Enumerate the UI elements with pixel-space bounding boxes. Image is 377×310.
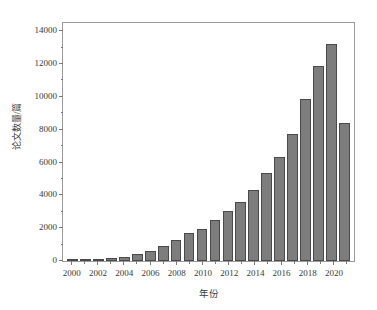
x-minor-tick-2019: [320, 261, 321, 264]
y-tick-label-8000: 8000: [39, 124, 57, 134]
x-tick-label-2014: 2014: [242, 268, 268, 278]
bar-2000: [67, 259, 78, 261]
x-tick-2004: 2004: [123, 261, 124, 265]
x-tick-label-2008: 2008: [164, 268, 190, 278]
bar-chart: 论文数量/篇 02000400060008000100001200014000 …: [0, 0, 377, 310]
x-tick-2014: 2014: [254, 261, 255, 265]
y-tick-label-10000: 10000: [35, 91, 58, 101]
bar-2001: [80, 259, 91, 261]
x-minor-tick-2021: [346, 261, 347, 264]
bar-2021: [339, 123, 350, 261]
x-tick-label-2016: 2016: [269, 268, 295, 278]
bar-2011: [210, 220, 221, 261]
bar-2018: [300, 99, 311, 261]
x-tick-label-2010: 2010: [190, 268, 216, 278]
x-tick-2016: 2016: [281, 261, 282, 265]
x-minor-tick-2009: [189, 261, 190, 264]
x-tick-2002: 2002: [97, 261, 98, 265]
x-tick-2012: 2012: [228, 261, 229, 265]
bar-2006: [145, 251, 156, 261]
y-tick-label-4000: 4000: [39, 189, 57, 199]
x-minor-tick-2005: [136, 261, 137, 264]
x-minor-tick-2001: [84, 261, 85, 264]
y-tick-label-0: 0: [53, 255, 58, 265]
bar-2019: [313, 66, 324, 261]
x-axis-title: 年份: [62, 286, 355, 300]
y-tick-label-6000: 6000: [39, 157, 57, 167]
bar-2009: [184, 233, 195, 261]
bar-2015: [261, 173, 272, 261]
x-tick-2010: 2010: [202, 261, 203, 265]
x-tick-2020: 2020: [333, 261, 334, 265]
bar-2016: [274, 157, 285, 261]
x-tick-label-2012: 2012: [216, 268, 242, 278]
y-axis-title: 论文数量/篇: [10, 72, 23, 182]
x-minor-tick-2007: [163, 261, 164, 264]
y-tick-label-12000: 12000: [35, 58, 58, 68]
x-minor-tick-2003: [110, 261, 111, 264]
bar-2013: [235, 202, 246, 261]
x-tick-label-2006: 2006: [138, 268, 164, 278]
bar-2017: [287, 134, 298, 261]
x-tick-2018: 2018: [307, 261, 308, 265]
bar-2020: [326, 44, 337, 261]
plot-area: 02000400060008000100001200014000 2000200…: [62, 22, 355, 262]
x-tick-2000: 2000: [71, 261, 72, 265]
bar-2003: [106, 258, 117, 261]
bar-2004: [119, 257, 130, 261]
bar-series: [63, 23, 354, 261]
x-tick-label-2000: 2000: [59, 268, 85, 278]
bar-2012: [223, 211, 234, 261]
y-tick-label-2000: 2000: [39, 222, 57, 232]
bar-2007: [158, 246, 169, 261]
x-tick-label-2002: 2002: [85, 268, 111, 278]
x-tick-2008: 2008: [176, 261, 177, 265]
x-minor-tick-2015: [267, 261, 268, 264]
x-tick-label-2004: 2004: [111, 268, 137, 278]
x-tick-label-2020: 2020: [321, 268, 347, 278]
bar-2014: [248, 190, 259, 261]
x-minor-tick-2013: [241, 261, 242, 264]
x-tick-2006: 2006: [150, 261, 151, 265]
y-tick-label-14000: 14000: [35, 25, 58, 35]
bar-2010: [197, 229, 208, 261]
x-minor-tick-2011: [215, 261, 216, 264]
bar-2008: [171, 240, 182, 261]
bar-2005: [132, 254, 143, 261]
x-tick-label-2018: 2018: [295, 268, 321, 278]
bar-2002: [93, 259, 104, 261]
x-minor-tick-2017: [294, 261, 295, 264]
